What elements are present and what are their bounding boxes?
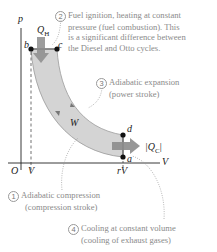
step-number-2: 2 bbox=[55, 11, 66, 22]
x-tick-rv: rV bbox=[117, 166, 127, 176]
qc-label: |QC| bbox=[145, 142, 162, 156]
label-b: b bbox=[24, 40, 29, 50]
label-a: a bbox=[127, 154, 132, 164]
v-axis-label: V bbox=[162, 157, 168, 167]
leader-1 bbox=[62, 138, 78, 190]
p-axis-label: p bbox=[18, 14, 23, 24]
step-number-1: 1 bbox=[8, 191, 19, 202]
leader-4 bbox=[132, 156, 164, 219]
qh-label: QH bbox=[37, 25, 49, 39]
cycle-band bbox=[31, 49, 123, 157]
point-b bbox=[28, 46, 33, 51]
annotation-3: 3Adiabatic expansion (power stroke) bbox=[96, 77, 179, 99]
point-a bbox=[120, 154, 125, 159]
work-label: W bbox=[70, 118, 78, 128]
step-number-3: 3 bbox=[96, 78, 107, 89]
point-d bbox=[120, 132, 125, 137]
label-d: d bbox=[127, 124, 132, 134]
annotation-1: 1Adiabatic compression (compression stro… bbox=[8, 190, 100, 212]
origin-label: O bbox=[11, 166, 18, 176]
step-number-4: 4 bbox=[68, 224, 79, 235]
x-tick-v: V bbox=[28, 166, 34, 176]
annotation-2: 2Fuel ignition, heating at constant pres… bbox=[55, 10, 186, 53]
annotation-4: 4Cooling at constant volume (cooling of … bbox=[68, 223, 176, 245]
